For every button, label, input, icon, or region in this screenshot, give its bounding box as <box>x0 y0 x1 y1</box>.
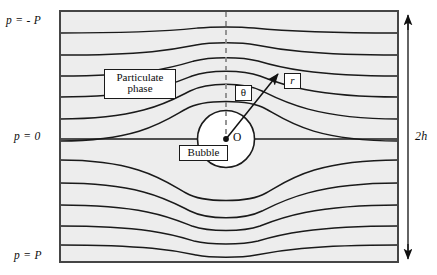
diagram-svg <box>0 0 437 275</box>
pressure-label-middle: p = 0 <box>14 130 41 142</box>
pressure-label-top: p = - P <box>6 14 41 26</box>
bubble-center-dot <box>223 136 229 142</box>
pressure-label-bottom: p = P <box>14 249 42 261</box>
figure-canvas: p = - P p = 0 p = P 2h Particulate phase… <box>0 0 437 275</box>
callout-particulate-line2: phase <box>105 83 175 94</box>
callout-theta-angle: θ <box>235 85 252 101</box>
height-marker-label: 2h <box>415 129 428 144</box>
callout-particulate-phase: Particulate phase <box>104 69 176 99</box>
callout-radius-r: r <box>284 73 301 89</box>
bubble-center-label: O <box>233 131 241 143</box>
callout-bubble: Bubble <box>179 145 228 161</box>
